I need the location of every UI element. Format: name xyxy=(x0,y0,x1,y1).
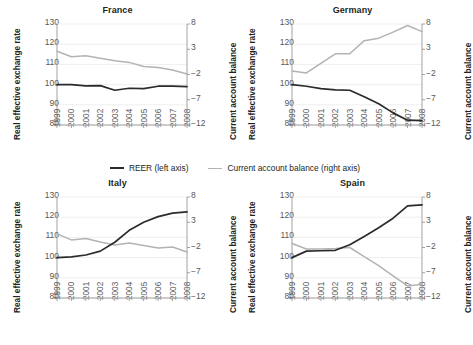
panel-spain: Spain Real effective exchange rate Curre… xyxy=(235,173,470,343)
axis-title-right: Current account balance xyxy=(463,216,473,313)
panel-title: Germany xyxy=(235,5,470,15)
series-line xyxy=(57,51,187,74)
series-line xyxy=(292,243,422,285)
axis-title-left: Real effective exchange rate xyxy=(12,201,22,313)
plot-area xyxy=(56,22,186,123)
panel-title: France xyxy=(0,5,235,15)
legend-item-current-account: Current account balance (right axis) xyxy=(208,163,360,173)
legend-line-current-account-icon xyxy=(208,168,222,169)
axis-title-right: Current account balance xyxy=(463,43,473,140)
panel-germany: Germany Real effective exchange rate Cur… xyxy=(235,0,470,170)
panel-france: France Real effective exchange rate Curr… xyxy=(0,0,235,170)
axis-title-left: Real effective exchange rate xyxy=(12,28,22,140)
plot-area xyxy=(56,195,186,296)
panel-title: Italy xyxy=(0,178,235,188)
axis-title-left: Real effective exchange rate xyxy=(247,201,257,313)
panel-italy: Italy Real effective exchange rate Curre… xyxy=(0,173,235,343)
legend-item-reer: REER (left axis) xyxy=(110,163,189,173)
plot-area xyxy=(291,195,421,296)
legend-line-reer-icon xyxy=(110,167,124,169)
plot-area xyxy=(291,22,421,123)
series-line xyxy=(57,212,187,258)
axis-title-left: Real effective exchange rate xyxy=(247,28,257,140)
series-line xyxy=(57,85,187,91)
series-line xyxy=(292,26,422,73)
legend-label-current-account: Current account balance (right axis) xyxy=(227,163,360,173)
legend: REER (left axis) Current account balance… xyxy=(0,163,470,173)
series-line xyxy=(292,85,422,121)
panel-title: Spain xyxy=(235,178,470,188)
legend-label-reer: REER (left axis) xyxy=(129,163,189,173)
